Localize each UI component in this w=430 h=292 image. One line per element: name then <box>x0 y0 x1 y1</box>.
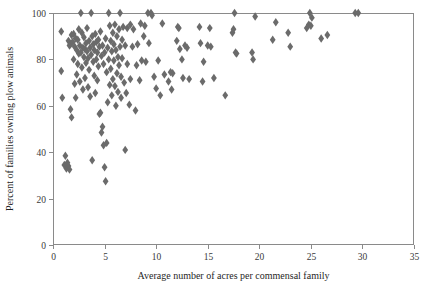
data-point <box>169 85 175 93</box>
data-point <box>74 70 80 78</box>
data-point <box>146 39 152 47</box>
y-tick-label: 20 <box>37 195 47 205</box>
data-point <box>77 77 83 85</box>
y-tick-label: 40 <box>37 148 47 158</box>
data-point <box>121 78 127 86</box>
data-point <box>105 98 111 106</box>
data-point <box>143 58 149 66</box>
data-point <box>78 9 84 17</box>
data-point <box>222 91 228 99</box>
data-point <box>287 42 293 50</box>
data-point <box>123 89 129 97</box>
data-point <box>99 128 105 136</box>
data-point <box>273 18 279 26</box>
data-point <box>211 74 217 82</box>
data-point <box>249 48 255 56</box>
x-tick-label: 30 <box>358 252 368 262</box>
data-point <box>174 37 180 45</box>
data-point <box>71 55 77 63</box>
data-point <box>107 22 113 30</box>
y-tick-label: 80 <box>37 55 47 65</box>
y-tick-label: 0 <box>41 241 46 251</box>
data-point <box>179 55 185 63</box>
data-point <box>122 146 128 154</box>
data-point <box>92 89 98 97</box>
data-point <box>113 102 119 110</box>
x-tick-label: 10 <box>152 252 162 262</box>
data-point <box>177 45 183 53</box>
data-point <box>119 54 125 62</box>
data-point <box>127 75 133 83</box>
data-point <box>130 42 136 50</box>
data-point <box>197 23 203 31</box>
data-point <box>82 74 88 82</box>
x-axis-ticks: 05101520253035 <box>51 245 419 262</box>
data-point <box>117 9 123 17</box>
data-point <box>103 34 109 42</box>
data-point <box>69 113 75 121</box>
data-point <box>201 58 207 66</box>
data-point <box>84 24 90 32</box>
x-tick-label: 20 <box>255 252 265 262</box>
data-point <box>89 156 95 164</box>
data-point <box>153 84 159 92</box>
y-tick-label: 100 <box>32 9 47 19</box>
data-point <box>88 9 94 17</box>
data-point <box>109 91 115 99</box>
data-point <box>118 93 124 101</box>
x-tick-label: 5 <box>103 252 108 262</box>
data-point <box>157 91 163 99</box>
x-tick-label: 25 <box>307 252 317 262</box>
scatter-chart: 05101520253035 020406080100 Average numb… <box>0 0 430 292</box>
data-point <box>87 92 93 100</box>
data-markers <box>58 9 361 186</box>
data-point <box>102 163 108 171</box>
data-point <box>141 32 147 40</box>
data-point <box>101 60 107 68</box>
data-point <box>355 9 361 17</box>
data-point <box>200 77 206 85</box>
data-point <box>232 9 238 17</box>
data-point <box>198 39 204 47</box>
data-point <box>68 105 74 113</box>
x-tick-label: 15 <box>204 252 214 262</box>
data-point <box>207 24 213 32</box>
data-point <box>270 35 276 43</box>
x-tick-label: 0 <box>51 252 56 262</box>
data-point <box>58 27 64 35</box>
data-point <box>180 74 186 82</box>
data-point <box>72 80 78 88</box>
data-point <box>186 75 192 83</box>
data-point <box>100 122 106 130</box>
data-point <box>134 61 140 69</box>
data-point <box>155 56 161 64</box>
data-point <box>73 93 79 101</box>
data-point <box>107 81 113 89</box>
data-point <box>285 29 291 37</box>
data-point <box>137 76 143 84</box>
data-point <box>58 67 64 75</box>
data-point <box>86 66 92 74</box>
data-point <box>98 27 104 35</box>
data-point <box>106 9 112 17</box>
data-point <box>126 100 132 108</box>
data-point <box>85 83 91 91</box>
data-point <box>133 106 139 114</box>
data-point <box>159 19 165 27</box>
y-axis-ticks: 020406080100 <box>32 9 53 251</box>
data-point <box>106 55 112 63</box>
y-axis-title: Percent of families owning plow animals <box>4 47 15 211</box>
data-point <box>80 85 86 93</box>
data-point <box>166 77 172 85</box>
data-point <box>122 41 128 49</box>
x-axis-title: Average number of acres per commensal fa… <box>138 270 330 281</box>
data-point <box>151 73 157 81</box>
data-point <box>59 93 65 101</box>
data-point <box>161 70 167 78</box>
data-point <box>116 61 122 69</box>
data-point <box>115 88 121 96</box>
data-point <box>103 177 109 185</box>
data-point <box>250 55 256 63</box>
data-point <box>135 40 141 48</box>
y-tick-label: 60 <box>37 102 47 112</box>
